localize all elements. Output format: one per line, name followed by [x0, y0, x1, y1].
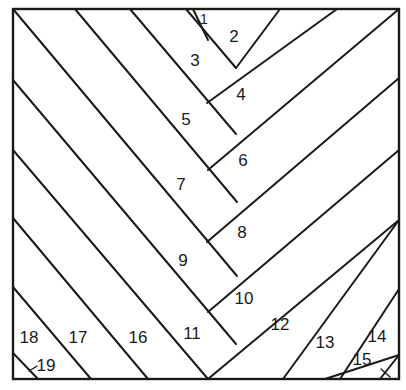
- piece-label: 10: [235, 289, 254, 308]
- piece-label: 17: [69, 328, 88, 347]
- piece-label: 2: [229, 27, 238, 46]
- piece-label: 4: [236, 85, 245, 104]
- herringbone-diagram: 12345678910111213141516171819: [0, 0, 406, 390]
- piece-label: 11: [183, 324, 201, 343]
- piece-label: 1: [200, 11, 208, 27]
- piece-label: 18: [20, 328, 39, 347]
- piece-label: 6: [238, 151, 247, 170]
- piece-label: 13: [316, 333, 335, 352]
- piece-label: 16: [129, 328, 148, 347]
- piece-label: 15: [353, 350, 372, 369]
- piece-label: 12: [271, 315, 290, 334]
- piece-label: 19: [37, 356, 56, 375]
- quilt-block-frame: [13, 9, 399, 379]
- piece-label: 3: [190, 51, 199, 70]
- piece-label: 7: [176, 175, 185, 194]
- piece-label: 8: [237, 223, 246, 242]
- piece-label: 9: [178, 251, 187, 270]
- piece-label: 5: [181, 110, 190, 129]
- piece-label: 14: [368, 327, 387, 346]
